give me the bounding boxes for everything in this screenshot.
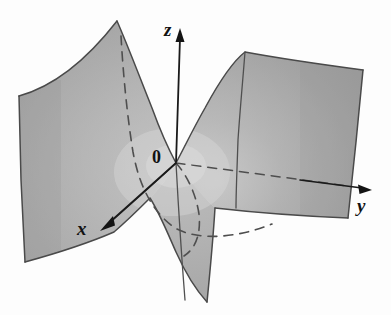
y-axis-label: y: [357, 196, 365, 215]
x-axis-label: x: [77, 219, 87, 238]
hyperbolic-paraboloid-surface: [0, 0, 391, 315]
surface-shading-overlay: [0, 0, 391, 315]
figure-canvas: z y x 0: [0, 0, 391, 315]
z-axis-label: z: [164, 20, 171, 39]
z-axis-arrowhead: [176, 28, 185, 42]
z-axis: [176, 28, 185, 163]
y-axis-arrowhead: [358, 185, 372, 195]
origin-label: 0: [152, 148, 161, 166]
